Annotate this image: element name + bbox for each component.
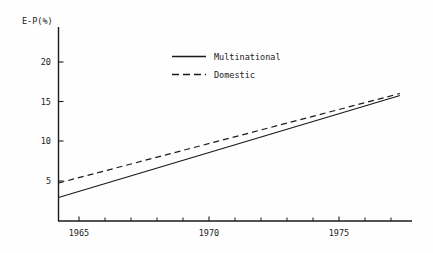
y-axis-title: E-P(%) xyxy=(22,16,53,26)
figure-background xyxy=(0,0,433,253)
y-tick-label-20: 20 xyxy=(41,57,51,67)
y-tick-label-15: 15 xyxy=(41,97,51,107)
x-tick-label-1975: 1975 xyxy=(329,228,349,238)
x-tick-label-1965: 1965 xyxy=(69,228,89,238)
legend-label-multinational: Multinational xyxy=(214,52,281,62)
x-tick-label-1970: 1970 xyxy=(199,228,219,238)
y-tick-label-10: 10 xyxy=(41,136,51,146)
chart-canvas: 20 15 10 5 E-P(%) 1965 1970 1975 xyxy=(0,0,433,253)
y-tick-label-5: 5 xyxy=(46,176,51,186)
legend-label-domestic: Domestic xyxy=(214,70,255,80)
chart-figure: 20 15 10 5 E-P(%) 1965 1970 1975 xyxy=(0,0,433,253)
